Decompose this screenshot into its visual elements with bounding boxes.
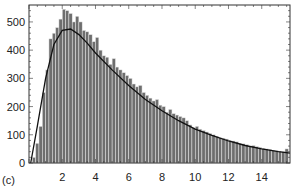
histogram-bar (132, 84, 135, 163)
histogram-bars (32, 9, 288, 163)
histogram-bar (145, 95, 148, 163)
histogram-bar (62, 9, 65, 163)
histogram-bar (195, 126, 198, 163)
histogram-bar (258, 147, 261, 163)
histogram-bar (255, 147, 258, 163)
panel-label: (c) (2, 174, 15, 186)
y-tick-label: 200 (7, 101, 25, 113)
histogram-bar (228, 140, 231, 163)
histogram-bar (252, 146, 255, 163)
histogram-bar (79, 22, 82, 163)
x-tick-label: 8 (159, 171, 165, 183)
histogram-bar (169, 109, 172, 163)
histogram-bar (135, 87, 138, 163)
histogram-bar (112, 59, 115, 163)
histogram-bar (129, 78, 132, 163)
histogram-bar (189, 125, 192, 163)
histogram-bar (122, 73, 125, 163)
histogram-bar (285, 149, 288, 163)
histogram-bar (199, 129, 202, 163)
histogram-bar (105, 57, 108, 163)
histogram-bar (59, 19, 62, 163)
histogram-bar (262, 148, 265, 163)
histogram-bar (155, 100, 158, 163)
histogram-bar (76, 16, 79, 163)
histogram-bar (232, 141, 235, 163)
histogram-bar (222, 138, 225, 163)
histogram-bar (238, 143, 241, 163)
histogram-bar (86, 32, 89, 163)
histogram-bar (125, 76, 128, 163)
histogram-bar (245, 145, 248, 163)
histogram-bar (162, 107, 165, 163)
histogram-bar (72, 22, 75, 163)
x-tick-label: 6 (126, 171, 132, 183)
histogram-bar (268, 149, 271, 163)
y-tick-label: 0 (19, 157, 25, 169)
histogram-chart: 2468101214 0100200300400500 (c) (0, 0, 293, 192)
histogram-bar (175, 115, 178, 163)
histogram-bar (215, 136, 218, 163)
histogram-bar (82, 30, 85, 163)
histogram-bar (159, 105, 162, 163)
histogram-bar (69, 13, 72, 163)
histogram-bar (142, 92, 145, 163)
histogram-bar (248, 146, 251, 163)
histogram-bar (102, 56, 105, 163)
histogram-bar (109, 64, 112, 163)
x-tick-label: 2 (59, 171, 65, 183)
histogram-bar (36, 143, 39, 163)
histogram-bar (225, 139, 228, 163)
histogram-bar (66, 11, 69, 163)
histogram-bar (92, 42, 95, 163)
x-tick-label: 12 (222, 171, 234, 183)
y-tick-label: 100 (7, 129, 25, 141)
histogram-bar (192, 128, 195, 163)
histogram-bar (32, 157, 35, 163)
histogram-bar (182, 118, 185, 163)
histogram-bar (282, 152, 285, 163)
histogram-bar (46, 70, 49, 163)
histogram-bar (275, 151, 278, 163)
histogram-bar (56, 28, 59, 163)
histogram-bar (242, 144, 245, 163)
histogram-bar (202, 131, 205, 163)
histogram-bar (165, 112, 168, 163)
histogram-bar (152, 101, 155, 163)
y-tick-label: 300 (7, 72, 25, 84)
histogram-bar (52, 33, 55, 163)
histogram-bar (179, 116, 182, 163)
y-tick-label: 500 (7, 16, 25, 28)
histogram-bar (115, 67, 118, 163)
y-tick-label: 400 (7, 44, 25, 56)
histogram-bar (205, 132, 208, 163)
histogram-bar (219, 138, 222, 163)
x-tick-label: 4 (92, 171, 98, 183)
histogram-bar (272, 150, 275, 163)
histogram-bar (172, 114, 175, 163)
histogram-bar (99, 50, 102, 163)
histogram-bar (212, 135, 215, 163)
x-tick-label: 10 (189, 171, 201, 183)
x-tick-label: 14 (256, 171, 268, 183)
histogram-bar (149, 98, 152, 163)
histogram-bar (278, 151, 281, 163)
histogram-bar (209, 133, 212, 163)
histogram-bar (235, 142, 238, 163)
histogram-bar (185, 121, 188, 163)
histogram-bar (119, 70, 122, 163)
histogram-bar (39, 126, 42, 163)
histogram-bar (89, 35, 92, 163)
histogram-bar (265, 149, 268, 163)
histogram-bar (42, 92, 45, 163)
